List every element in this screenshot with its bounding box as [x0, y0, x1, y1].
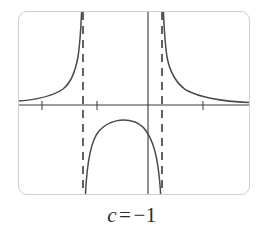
plot-frame	[18, 11, 250, 195]
figure-container: c=−1	[0, 0, 264, 242]
plot-canvas	[19, 12, 249, 194]
caption-operator: =	[117, 203, 133, 227]
caption-value: −1	[133, 203, 156, 227]
curve-left-branch	[19, 12, 82, 101]
caption-variable: c	[107, 203, 117, 227]
curve-middle-branch	[86, 120, 161, 194]
figure-caption: c=−1	[0, 203, 264, 228]
curve-right-branch	[163, 12, 249, 103]
